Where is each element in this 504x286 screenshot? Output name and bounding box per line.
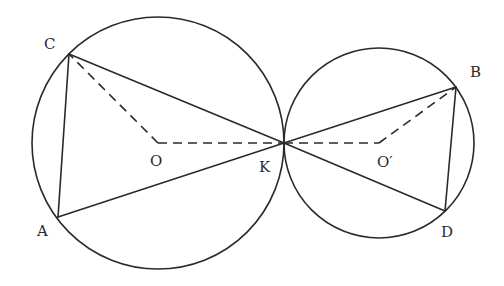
label-C: C (44, 35, 55, 53)
label-B: B (470, 63, 481, 81)
segment-CK (69, 54, 284, 143)
label-O: O (150, 152, 162, 170)
segment-AK (58, 143, 284, 217)
segment-OprimeB (379, 87, 456, 143)
segment-OC (69, 54, 158, 143)
label-D: D (441, 223, 453, 241)
segment-KD (284, 143, 445, 211)
tangent-circles-diagram: C A O K O′ B D (0, 0, 504, 286)
label-K: K (259, 158, 271, 176)
label-A: A (36, 222, 48, 240)
label-Oprime: O′ (377, 153, 393, 171)
segment-KB (284, 87, 456, 143)
segment-CA (58, 54, 69, 217)
segment-BD (445, 87, 456, 211)
